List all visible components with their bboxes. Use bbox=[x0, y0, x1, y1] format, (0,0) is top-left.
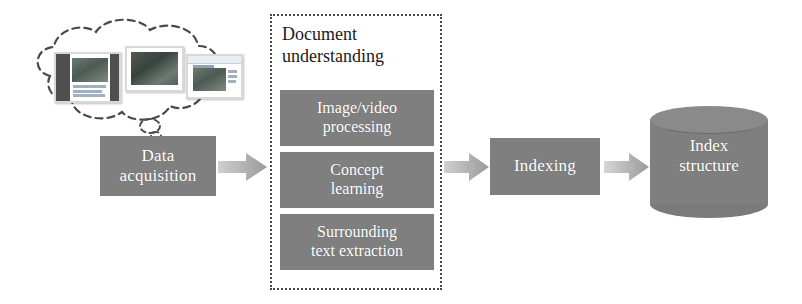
indexing-label: Indexing bbox=[490, 156, 600, 176]
thumbnail-right-bar bbox=[110, 54, 119, 101]
thumbnail-text-line bbox=[193, 65, 214, 68]
document-understanding-title-line1: Document bbox=[282, 24, 434, 46]
surrounding-text-extraction-label-line1: Surrounding bbox=[280, 223, 434, 242]
data-acquisition-label-line2: acquisition bbox=[100, 166, 216, 186]
concept-learning-label-line2: learning bbox=[280, 180, 434, 199]
diagram-canvas: Data acquisition Document understanding … bbox=[0, 0, 802, 304]
stage-surrounding-text-extraction[interactable]: Surrounding text extraction bbox=[280, 214, 434, 270]
concept-learning-label-line1: Concept bbox=[280, 161, 434, 180]
right-block-arrow-icon bbox=[604, 153, 650, 181]
cylinder-top-ellipse bbox=[650, 106, 768, 134]
data-acquisition-label-line1: Data bbox=[100, 146, 216, 166]
thumbnail-text-line bbox=[73, 85, 106, 88]
stage-image-video-processing[interactable]: Image/video processing bbox=[280, 90, 434, 146]
stage-data-acquisition[interactable]: Data acquisition bbox=[100, 136, 216, 196]
right-block-arrow-icon bbox=[218, 152, 268, 182]
right-block-arrow-icon bbox=[444, 152, 490, 182]
thumbnail-header-bar bbox=[188, 56, 241, 64]
index-structure-label-line2: structure bbox=[650, 156, 768, 176]
stage-indexing[interactable]: Indexing bbox=[490, 138, 600, 195]
document-understanding-title: Document understanding bbox=[282, 24, 434, 67]
index-structure-label-line1: Index bbox=[650, 136, 768, 156]
surrounding-text-extraction-label-line2: text extraction bbox=[280, 242, 434, 261]
index-structure-label: Index structure bbox=[650, 136, 768, 177]
thumbnail-photo-area bbox=[72, 58, 107, 82]
stage-document-understanding-group: Document understanding Image/video proce… bbox=[270, 14, 442, 290]
cloud-icon bbox=[28, 14, 228, 142]
webpage-thumbnail-icon bbox=[186, 54, 243, 99]
thumbnail-text-line bbox=[73, 90, 102, 93]
thumbnail-text-line bbox=[73, 94, 105, 97]
thumbnail-photo-area bbox=[131, 52, 178, 86]
thumbnail-photo-area bbox=[193, 68, 226, 91]
image-video-processing-label-line1: Image/video bbox=[280, 99, 434, 118]
image-video-processing-label-line2: processing bbox=[280, 118, 434, 137]
thumbnail-text-line bbox=[228, 70, 236, 73]
thumbnail-text-line bbox=[228, 75, 236, 78]
thumbnail-text-line bbox=[228, 80, 235, 83]
document-understanding-title-line2: understanding bbox=[282, 46, 434, 68]
photo-thumbnail-icon bbox=[125, 46, 184, 92]
database-cylinder-icon[interactable]: Index structure bbox=[650, 106, 768, 218]
thumbnail-left-bar bbox=[56, 54, 70, 101]
document-thumbnail-icon bbox=[54, 52, 121, 103]
stage-concept-learning[interactable]: Concept learning bbox=[280, 152, 434, 208]
